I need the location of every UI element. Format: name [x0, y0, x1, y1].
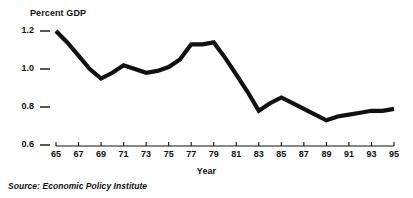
y-axis-tick-label: 0.6: [10, 139, 34, 149]
x-axis-tick-label: 83: [248, 149, 270, 159]
chart-figure: Percent GDP Year Source: Economic Policy…: [0, 0, 413, 198]
x-axis-tick-label: 65: [45, 149, 67, 159]
x-axis-tick-label: 79: [203, 149, 225, 159]
x-axis-tick-label: 95: [383, 149, 405, 159]
x-axis-tick-label: 75: [158, 149, 180, 159]
x-axis-tick-label: 85: [270, 149, 292, 159]
x-axis-tick-label: 73: [135, 149, 157, 159]
y-axis-tick-label: 0.8: [10, 101, 34, 111]
x-axis-tick-label: 81: [225, 149, 247, 159]
x-axis-tick-label: 67: [68, 149, 90, 159]
y-axis-tick-label: 1.2: [10, 25, 34, 35]
x-axis-tick-label: 71: [113, 149, 135, 159]
source-note: Source: Economic Policy Institute: [8, 181, 147, 191]
x-axis-tick-label: 69: [90, 149, 112, 159]
y-axis-tick-label: 1.0: [10, 63, 34, 73]
x-axis-tick-label: 77: [180, 149, 202, 159]
x-axis-tick-label: 93: [360, 149, 382, 159]
x-axis-tick-label: 87: [293, 149, 315, 159]
x-axis-title: Year: [0, 166, 413, 176]
x-axis-tick-label: 89: [315, 149, 337, 159]
x-axis-tick-label: 91: [338, 149, 360, 159]
data-series-line: [56, 31, 394, 120]
